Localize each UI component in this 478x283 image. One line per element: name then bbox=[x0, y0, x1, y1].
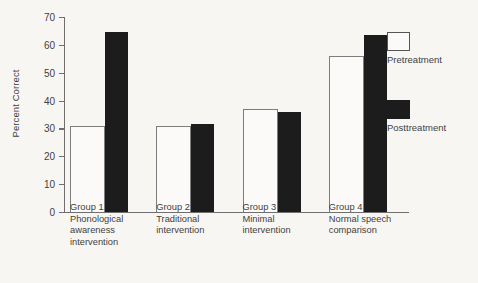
plot-area: 010203040506070 bbox=[64, 17, 409, 212]
y-tick-label: 60 bbox=[44, 39, 55, 50]
bar-pretreatment bbox=[243, 109, 278, 212]
y-axis-title: Percent Correct bbox=[10, 54, 21, 154]
y-tick-label: 70 bbox=[44, 12, 55, 23]
bar-pretreatment bbox=[329, 56, 364, 212]
y-tick-label: 40 bbox=[44, 95, 55, 106]
bar-chart: Percent Correct 010203040506070 Group 1 … bbox=[0, 0, 478, 283]
legend-entry-pretreatment: Pretreatment bbox=[387, 32, 442, 65]
y-tick: 40 bbox=[59, 101, 65, 102]
y-tick: 20 bbox=[59, 156, 65, 157]
bar-pretreatment bbox=[156, 126, 191, 212]
bar-posttreatment bbox=[191, 124, 214, 212]
group-label: Group 1 Phonological awareness intervent… bbox=[70, 202, 123, 248]
y-tick: 50 bbox=[59, 73, 65, 74]
y-tick: 60 bbox=[59, 45, 65, 46]
bar-pretreatment bbox=[70, 126, 105, 212]
y-tick-label: 10 bbox=[44, 179, 55, 190]
y-tick-label: 30 bbox=[44, 123, 55, 134]
legend-label-pretreatment: Pretreatment bbox=[387, 54, 442, 65]
bar-posttreatment bbox=[105, 32, 128, 212]
y-tick: 70 bbox=[59, 17, 65, 18]
legend-swatch-pretreatment bbox=[387, 32, 410, 51]
bar-posttreatment bbox=[278, 112, 301, 212]
y-tick-label: 0 bbox=[49, 207, 55, 218]
y-tick-label: 20 bbox=[44, 151, 55, 162]
y-tick: 30 bbox=[59, 128, 65, 129]
group-label: Group 3 Minimal intervention bbox=[243, 202, 291, 237]
y-axis-line bbox=[64, 17, 65, 212]
legend-swatch-posttreatment bbox=[387, 100, 410, 119]
legend-label-posttreatment: Posttreatment bbox=[387, 122, 446, 133]
group-label: Group 2 Traditional intervention bbox=[156, 202, 204, 237]
group-label: Group 4 Normal speech comparison bbox=[329, 202, 392, 237]
legend-entry-posttreatment: Posttreatment bbox=[387, 100, 446, 133]
bar-posttreatment bbox=[364, 35, 387, 212]
y-tick: 10 bbox=[59, 184, 65, 185]
y-tick-label: 50 bbox=[44, 67, 55, 78]
y-tick: 0 bbox=[59, 212, 65, 213]
